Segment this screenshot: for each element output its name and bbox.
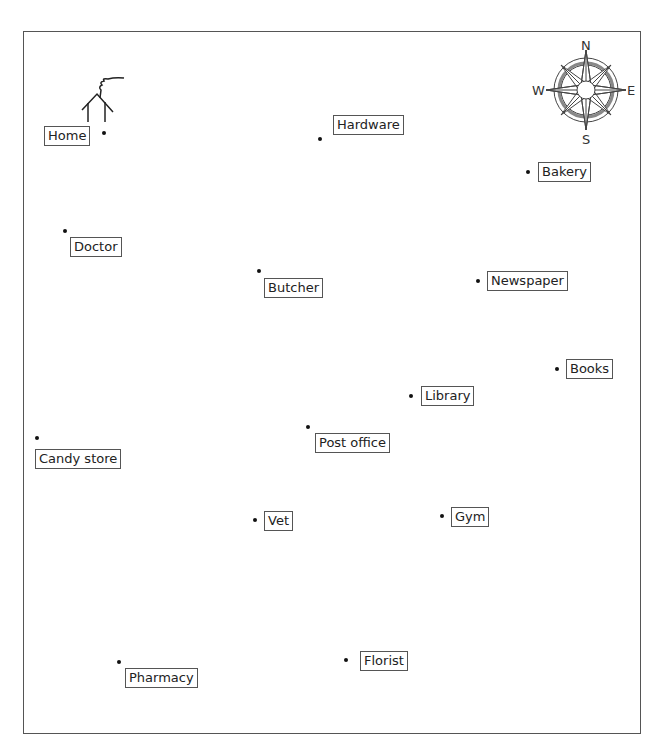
place-label-library: Library	[421, 386, 474, 406]
place-label-candy-store: Candy store	[35, 449, 121, 469]
place-label-bakery: Bakery	[538, 162, 591, 182]
place-label-books: Books	[566, 359, 613, 379]
compass-south: S	[582, 132, 590, 147]
place-label-home: Home	[44, 126, 90, 146]
place-label-vet: Vet	[264, 511, 293, 531]
place-marker-library	[409, 394, 413, 398]
place-marker-hardware	[318, 137, 322, 141]
place-marker-butcher	[257, 269, 261, 273]
house-with-smoke-icon	[82, 78, 124, 122]
place-marker-gym	[440, 514, 444, 518]
place-label-butcher: Butcher	[264, 278, 323, 298]
compass-west: W	[532, 83, 545, 98]
place-label-doctor: Doctor	[70, 237, 122, 257]
place-marker-pharmacy	[117, 660, 121, 664]
compass-rose-icon	[546, 50, 626, 130]
place-marker-books	[555, 367, 559, 371]
place-marker-post-office	[306, 425, 310, 429]
map-graphics	[0, 0, 654, 742]
place-marker-florist	[344, 658, 348, 662]
place-marker-newspaper	[476, 279, 480, 283]
place-marker-bakery	[526, 170, 530, 174]
place-label-gym: Gym	[451, 507, 489, 527]
place-label-newspaper: Newspaper	[487, 271, 568, 291]
compass-north: N	[581, 38, 591, 53]
place-marker-home	[102, 131, 106, 135]
place-marker-vet	[253, 518, 257, 522]
place-label-hardware: Hardware	[333, 115, 404, 135]
place-marker-candy-store	[35, 436, 39, 440]
place-label-pharmacy: Pharmacy	[125, 668, 198, 688]
place-marker-doctor	[63, 229, 67, 233]
place-label-florist: Florist	[360, 651, 408, 671]
compass-east: E	[627, 83, 635, 98]
place-label-post-office: Post office	[315, 433, 390, 453]
